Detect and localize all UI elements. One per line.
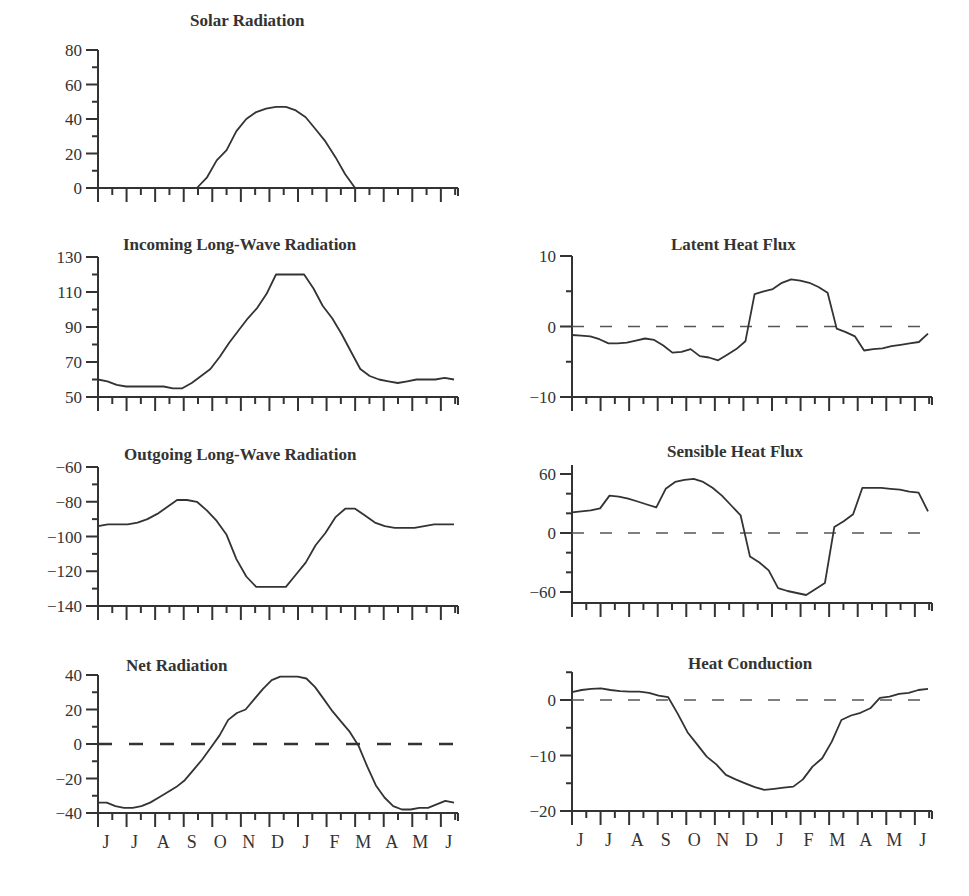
y-tick-label: 130 (57, 248, 83, 267)
y-tick-label: −10 (529, 388, 556, 407)
x-month-label: J (102, 832, 109, 852)
y-tick-label: −40 (55, 804, 82, 823)
y-tick-label: 40 (65, 666, 82, 685)
x-month-label: N (242, 832, 255, 852)
chart-title-outgoing-lw: Outgoing Long-Wave Radiation (124, 445, 357, 464)
y-tick-label: 10 (539, 247, 556, 266)
chart-latent_heat: −10010 (529, 247, 932, 411)
y-tick-label: 0 (548, 691, 557, 710)
y-tick-label: 80 (65, 41, 82, 60)
x-month-label: N (716, 830, 729, 850)
chart-outgoing_lw: −140−120−100−80−60 (47, 458, 458, 620)
y-tick-label: 40 (65, 110, 82, 129)
x-month-label: A (631, 830, 644, 850)
chart-title-incoming-lw: Incoming Long-Wave Radiation (123, 235, 357, 254)
x-month-label: A (157, 832, 170, 852)
chart-title-latent-heat: Latent Heat Flux (671, 235, 796, 254)
y-tick-label: 50 (65, 388, 82, 407)
y-tick-label: −100 (47, 528, 82, 547)
y-tick-label: −10 (529, 747, 556, 766)
series-line-net_radiation (98, 677, 454, 810)
x-month-label: J (605, 830, 612, 850)
chart-net_radiation: −40−2002040JJASONDJFMAMJ (55, 666, 458, 852)
series-line-sensible_heat (572, 479, 928, 595)
y-tick-label: 0 (548, 318, 557, 337)
series-line-outgoing_lw (98, 500, 454, 587)
climate-energy-balance-figure: Solar Radiation Incoming Long-Wave Radia… (0, 0, 969, 896)
y-tick-label: −60 (55, 458, 82, 477)
chart-title-solar: Solar Radiation (190, 11, 305, 30)
x-month-label: M (829, 830, 845, 850)
x-month-label: M (886, 830, 902, 850)
y-tick-label: 0 (74, 179, 83, 198)
x-month-label: F (804, 830, 814, 850)
x-month-label: S (187, 832, 197, 852)
chart-solar: 020406080 (65, 41, 458, 202)
x-month-label: A (859, 830, 872, 850)
x-month-label: S (661, 830, 671, 850)
series-line-heat_conduction (572, 688, 928, 790)
y-tick-label: −120 (47, 562, 82, 581)
y-tick-label: −60 (529, 583, 556, 602)
y-tick-label: 70 (65, 353, 82, 372)
x-month-label: M (355, 832, 371, 852)
chart-title-heat-conduction: Heat Conduction (688, 654, 813, 673)
y-tick-label: 20 (65, 145, 82, 164)
chart-incoming_lw: 507090110130 (57, 248, 459, 411)
chart-title-net-radiation: Net Radiation (126, 656, 228, 675)
x-month-label: O (688, 830, 701, 850)
x-month-label: J (919, 830, 926, 850)
chart-sensible_heat: −60060 (529, 465, 932, 617)
x-month-label: D (271, 832, 284, 852)
series-line-incoming_lw (98, 275, 454, 389)
y-tick-label: 90 (65, 318, 82, 337)
x-month-label: J (445, 832, 452, 852)
y-tick-label: −80 (55, 493, 82, 512)
x-month-label: O (214, 832, 227, 852)
y-tick-label: 60 (539, 465, 556, 484)
x-month-label: M (412, 832, 428, 852)
y-tick-label: 20 (65, 701, 82, 720)
x-month-label: J (576, 830, 583, 850)
x-month-label: A (385, 832, 398, 852)
series-line-solar (98, 107, 454, 188)
y-tick-label: 110 (57, 283, 82, 302)
x-month-label: J (776, 830, 783, 850)
x-month-label: F (330, 832, 340, 852)
y-tick-label: 0 (548, 524, 557, 543)
x-month-label: J (302, 832, 309, 852)
chart-heat_conduction: −20−100JJASONDJFMAMJ (529, 672, 932, 850)
y-tick-label: 0 (74, 735, 83, 754)
y-tick-label: −140 (47, 597, 82, 616)
y-tick-label: 60 (65, 76, 82, 95)
x-month-label: J (131, 832, 138, 852)
series-line-latent_heat (572, 279, 928, 360)
y-tick-label: −20 (55, 770, 82, 789)
y-tick-label: −20 (529, 802, 556, 821)
chart-title-sensible-heat: Sensible Heat Flux (667, 442, 804, 461)
x-month-label: D (745, 830, 758, 850)
